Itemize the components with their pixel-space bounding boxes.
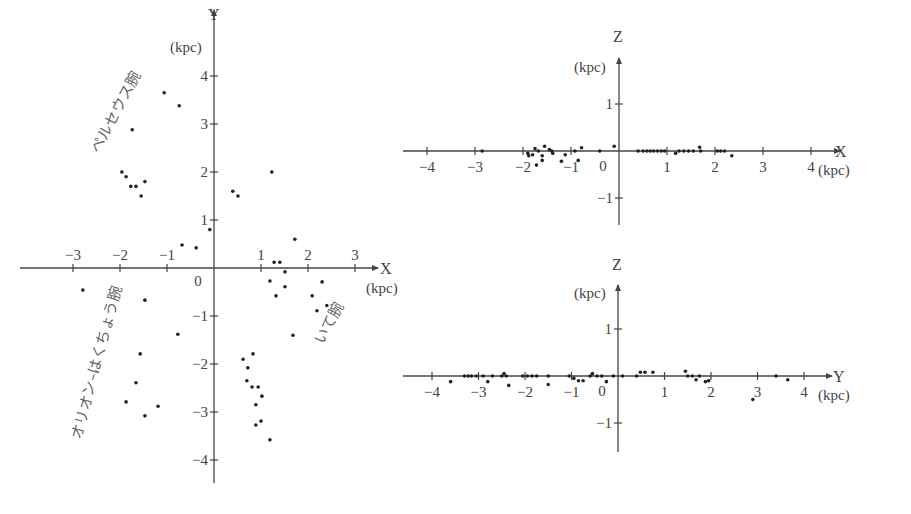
data-point	[260, 394, 264, 398]
data-point	[577, 379, 581, 383]
scatter-plot-xy: −3−2−11234321−1−2−3−40Y(kpc)X(kpc)ペルセウス腕…	[20, 6, 398, 483]
data-point	[143, 414, 147, 418]
data-point	[786, 378, 790, 382]
data-point	[245, 379, 249, 383]
data-point	[605, 380, 609, 384]
y-tick-label: −1	[192, 308, 208, 324]
data-point	[612, 374, 616, 378]
data-point	[774, 374, 778, 378]
data-point	[278, 260, 282, 264]
data-point	[176, 332, 180, 336]
data-point	[581, 379, 585, 383]
y-tick-label: −3	[192, 404, 208, 420]
data-point	[572, 377, 576, 381]
data-point	[274, 294, 278, 298]
chart-canvas: −3−2−11234321−1−2−3−40Y(kpc)X(kpc)ペルセウス腕…	[0, 0, 911, 514]
data-point	[268, 279, 272, 283]
data-point	[694, 378, 698, 382]
data-point	[180, 243, 184, 247]
data-point	[139, 194, 143, 198]
data-point	[682, 149, 686, 153]
data-point	[531, 153, 535, 157]
y-axis-unit: (kpc)	[574, 285, 606, 302]
data-point	[315, 309, 319, 313]
data-point	[236, 194, 240, 198]
data-point	[466, 374, 470, 378]
data-point	[535, 163, 539, 167]
data-point	[533, 147, 537, 151]
y-axis-title: Y	[208, 6, 220, 23]
data-point	[463, 374, 467, 378]
data-point	[162, 91, 166, 95]
data-point	[686, 374, 690, 378]
data-point	[635, 374, 639, 378]
x-tick-label: −3	[467, 159, 483, 175]
x-tick-label: −2	[517, 384, 533, 400]
data-point	[535, 374, 539, 378]
data-point	[251, 352, 255, 356]
data-point	[208, 228, 212, 232]
data-point	[283, 285, 287, 289]
y-tick-label: 1	[606, 96, 614, 112]
x-tick-label: 1	[661, 384, 669, 400]
x-axis-title: Y	[833, 368, 845, 385]
data-point	[699, 149, 703, 153]
arm-label: いて腕	[311, 299, 348, 347]
data-point	[543, 145, 547, 149]
data-point	[526, 374, 530, 378]
data-point	[677, 149, 681, 153]
x-tick-label: 2	[707, 384, 715, 400]
y-tick-label: −4	[192, 452, 208, 468]
y-axis-title: Z	[613, 28, 623, 45]
y-tick-label: 3	[201, 116, 209, 132]
x-tick-label: −1	[563, 159, 579, 175]
data-point	[636, 149, 640, 153]
x-tick-label: −4	[419, 159, 435, 175]
data-point	[719, 149, 723, 153]
data-point	[272, 260, 276, 264]
data-point	[595, 374, 599, 378]
x-tick-label: 2	[711, 159, 719, 175]
x-tick-label: −2	[515, 159, 531, 175]
data-point	[320, 280, 324, 284]
data-point	[293, 237, 297, 241]
data-point	[470, 374, 474, 378]
data-point	[612, 145, 616, 149]
data-point	[730, 154, 734, 158]
data-point	[639, 370, 643, 374]
data-point	[505, 374, 509, 378]
y-tick-label: 2	[201, 164, 209, 180]
x-tick-label: 3	[351, 247, 359, 263]
y-tick-label: 4	[201, 68, 209, 84]
x-tick-label: 3	[759, 159, 767, 175]
x-tick-label: −2	[112, 247, 128, 263]
data-point	[643, 370, 647, 374]
data-point	[507, 384, 511, 388]
data-point	[270, 170, 274, 174]
data-point	[134, 381, 138, 385]
arm-label: オリオン–はくちょう腕	[67, 284, 125, 441]
data-point	[81, 288, 85, 292]
data-point	[241, 357, 245, 361]
data-point	[259, 419, 263, 423]
y-axis-unit: (kpc)	[170, 39, 202, 56]
origin-label: 0	[598, 383, 606, 399]
x-axis-unit: (kpc)	[366, 280, 398, 297]
x-tick-label: 1	[663, 159, 671, 175]
data-point	[540, 154, 544, 158]
data-point	[652, 149, 656, 153]
data-point	[600, 374, 604, 378]
data-point	[177, 104, 181, 108]
data-point	[537, 149, 541, 153]
data-point	[546, 383, 550, 387]
data-point	[723, 149, 727, 153]
x-tick-label: −3	[65, 247, 81, 263]
data-point	[687, 149, 691, 153]
x-axis-unit: (kpc)	[818, 387, 850, 404]
data-point	[474, 374, 478, 378]
data-point	[481, 374, 485, 378]
y-tick-label: −1	[596, 415, 612, 431]
data-point	[254, 403, 258, 407]
data-point	[576, 159, 580, 163]
data-point	[659, 149, 663, 153]
